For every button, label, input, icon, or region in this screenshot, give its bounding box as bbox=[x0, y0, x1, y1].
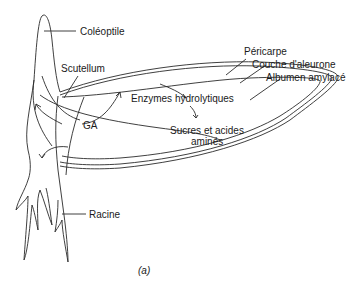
aleurone-label: Couche d'aleurone bbox=[252, 59, 336, 70]
sugars-label-2: aminés bbox=[191, 136, 223, 147]
ga-arrow-left bbox=[36, 104, 62, 124]
endosperm-label: Albumen amylacé bbox=[266, 72, 345, 83]
enzymes-label: Enzymes hydrolytiques bbox=[131, 93, 234, 104]
ga-label: GA bbox=[83, 120, 97, 131]
pericarp-label: Péricarpe bbox=[244, 46, 287, 57]
coleoptile-label: Coléoptile bbox=[80, 26, 124, 37]
root-outline bbox=[16, 180, 52, 260]
figure-caption: (a) bbox=[138, 265, 150, 276]
scutellum-label: Scutellum bbox=[61, 63, 105, 74]
root-label: Racine bbox=[89, 209, 120, 220]
sugars-label-1: Sucres et acides bbox=[170, 125, 244, 136]
grain-diagram bbox=[0, 0, 364, 295]
